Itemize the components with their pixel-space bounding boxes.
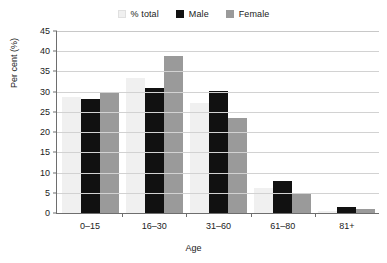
y-tick-label: 30: [40, 87, 57, 96]
y-tick-label: 10: [40, 168, 57, 177]
gridline: [57, 173, 379, 174]
y-tick-label: 15: [40, 148, 57, 157]
y-tick-label: 20: [40, 128, 57, 137]
gridline: [57, 112, 379, 113]
x-tick-mark: [122, 213, 123, 217]
y-tick-label: 45: [40, 27, 57, 36]
bar-male: [145, 88, 164, 213]
x-axis-title: Age: [0, 243, 387, 253]
gridline: [57, 92, 379, 93]
bar-male: [337, 207, 356, 213]
x-tick-mark: [186, 213, 187, 217]
bar-group-bars: [186, 31, 250, 213]
bar-group: 16–30: [122, 31, 186, 213]
bar-total: [62, 97, 81, 213]
bar-total: [190, 103, 209, 213]
legend-item-total: % total: [118, 9, 159, 19]
bar-total: [254, 188, 273, 213]
bar-group: 81+: [315, 31, 379, 213]
legend-item-male: Male: [176, 9, 209, 19]
bar-female: [356, 209, 375, 213]
legend-swatch-male: [176, 10, 184, 18]
x-tick-mark: [315, 213, 316, 217]
gridline: [57, 132, 379, 133]
bar-group: 31–60: [186, 31, 250, 213]
bar-female: [292, 193, 311, 213]
bar-male: [81, 99, 100, 213]
legend-swatch-female: [226, 10, 234, 18]
legend-swatch-total: [118, 10, 126, 18]
bar-group-bars: [315, 31, 379, 213]
y-tick-label: 5: [45, 188, 57, 197]
bar-female: [164, 56, 183, 213]
bar-chart: % total Male Female Per cent (%) 0–1516–…: [0, 0, 387, 263]
legend-label-male: Male: [189, 9, 209, 19]
bar-group-bars: [58, 31, 122, 213]
y-tick-label: 35: [40, 67, 57, 76]
x-tick-label: 81+: [315, 221, 379, 231]
bar-male: [273, 181, 292, 213]
bar-group: 61–80: [251, 31, 315, 213]
y-axis-title: Per cent (%): [9, 76, 20, 88]
legend-item-female: Female: [226, 9, 270, 19]
plot-area: 0–1516–3031–6061–8081+ 05101520253035404…: [56, 31, 379, 214]
x-tick-label: 31–60: [186, 221, 250, 231]
gridline: [57, 71, 379, 72]
x-tick-label: 0–15: [58, 221, 122, 231]
y-tick-label: 25: [40, 107, 57, 116]
legend-label-female: Female: [239, 9, 270, 19]
bar-group: 0–15: [58, 31, 122, 213]
x-tick-label: 61–80: [251, 221, 315, 231]
bar-total: [318, 211, 337, 213]
x-tick-mark: [251, 213, 252, 217]
y-tick-label: 0: [45, 209, 57, 218]
gridline: [57, 51, 379, 52]
bar-group-bars: [122, 31, 186, 213]
bar-group-bars: [251, 31, 315, 213]
gridline: [57, 31, 379, 32]
gridline: [57, 152, 379, 153]
chart-legend: % total Male Female: [0, 9, 387, 19]
legend-label-total: % total: [131, 9, 159, 19]
y-tick-label: 40: [40, 47, 57, 56]
gridline: [57, 193, 379, 194]
bar-groups: 0–1516–3031–6061–8081+: [58, 31, 379, 213]
x-tick-label: 16–30: [122, 221, 186, 231]
